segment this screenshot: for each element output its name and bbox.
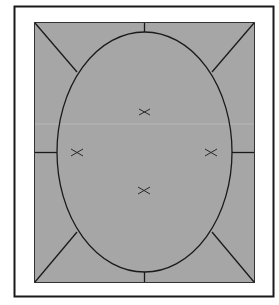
diagram-canvas: [0, 0, 279, 305]
